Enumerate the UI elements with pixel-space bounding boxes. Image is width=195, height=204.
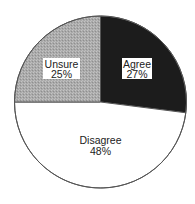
pie-slices [15,16,187,188]
slice-label-agree: Agree 27% [122,58,152,80]
label-agree-pct: 27% [126,68,147,80]
slice-label-unsure: Unsure 25% [43,58,80,80]
label-disagree-pct: 48% [90,145,111,157]
pie-chart: Unsure 25% Agree 27% Disagree 48% [0,0,195,204]
label-unsure-pct: 25% [51,68,72,80]
